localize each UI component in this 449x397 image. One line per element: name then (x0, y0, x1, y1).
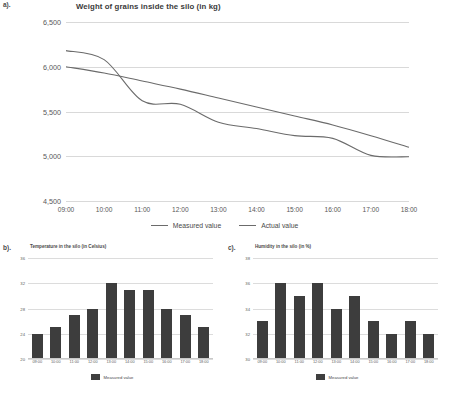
y-tick-label: 32 (245, 331, 250, 336)
pane-label-b: b). (3, 244, 11, 251)
y-tick-label: 5,000 (43, 152, 61, 161)
x-tick-label: 12:00 (84, 359, 103, 364)
bar-column[interactable] (290, 258, 309, 359)
x-tick-label: 09:00 (253, 359, 272, 364)
bar[interactable] (161, 309, 172, 360)
x-tick-label: 14:00 (346, 359, 365, 364)
x-tick-label: 12:00 (309, 359, 328, 364)
x-tick-label: 09:00 (28, 359, 47, 364)
bar-column[interactable] (401, 258, 420, 359)
bar[interactable] (198, 327, 209, 359)
y-tick-label: 4,500 (43, 197, 61, 206)
bar[interactable] (386, 334, 397, 359)
gridline (66, 201, 409, 202)
bar[interactable] (294, 296, 305, 359)
bar-column[interactable] (84, 258, 103, 359)
x-tick-label: 13:00 (327, 359, 346, 364)
bar[interactable] (405, 321, 416, 359)
chart-panel-a: a). Weight of grains inside the silo (in… (0, 0, 449, 240)
x-tick-label: 15:00 (364, 359, 383, 364)
x-tick-label: 15:00 (139, 359, 158, 364)
bar-column[interactable] (383, 258, 402, 359)
x-tick-label: 11:00 (290, 359, 309, 364)
bar-column[interactable] (102, 258, 121, 359)
x-tick-label: 18:00 (401, 206, 418, 213)
bar-column[interactable] (121, 258, 140, 359)
bar[interactable] (87, 309, 98, 360)
x-tick-label: 10:00 (47, 359, 66, 364)
bar[interactable] (312, 283, 323, 359)
legend-line-icon (151, 225, 168, 226)
y-tick-label: 36 (20, 256, 25, 261)
y-tick-label: 20 (20, 357, 25, 362)
bar-column[interactable] (158, 258, 177, 359)
bar[interactable] (349, 296, 360, 359)
x-tick-label: 17:00 (363, 206, 380, 213)
bar-column[interactable] (364, 258, 383, 359)
y-tick-label: 24 (20, 331, 25, 336)
bar[interactable] (50, 327, 61, 359)
plot-area-b: 2024283236 (28, 258, 213, 359)
bar[interactable] (32, 334, 43, 359)
bar-column[interactable] (139, 258, 158, 359)
bar[interactable] (423, 334, 434, 359)
chart-title-c: Humidity in the silo (in %) (255, 244, 311, 249)
x-tick-label: 14:00 (121, 359, 140, 364)
x-tick-label: 16:00 (158, 359, 177, 364)
bar-column[interactable] (28, 258, 47, 359)
x-tick-label: 18:00 (195, 359, 214, 364)
bar-column[interactable] (272, 258, 291, 359)
bar-column[interactable] (327, 258, 346, 359)
bar-column[interactable] (195, 258, 214, 359)
x-tick-label: 17:00 (401, 359, 420, 364)
legend-a: Measured valueActual value (0, 222, 449, 229)
x-axis-labels-c: 09:0010:0011:0012:0013:0014:0015:0016:00… (253, 359, 438, 364)
y-tick-label: 36 (245, 281, 250, 286)
bar[interactable] (69, 315, 80, 359)
plot-area-c: 3032343638 (253, 258, 438, 359)
legend-label-c: Measured value (329, 375, 359, 380)
bar[interactable] (180, 315, 191, 359)
x-tick-label: 14:00 (248, 206, 265, 213)
plot-area-a: 4,5005,0005,5006,0006,500 09:0010:0011:0… (66, 22, 409, 201)
legend-swatch-icon (316, 374, 325, 380)
y-tick-label: 6,500 (43, 18, 61, 27)
x-tick-label: 11:00 (134, 206, 150, 213)
bar[interactable] (143, 290, 154, 359)
chart-title-b: Temperature in the silo (in Celsius) (30, 244, 106, 249)
y-tick-label: 28 (20, 306, 25, 311)
bar-column[interactable] (309, 258, 328, 359)
bar[interactable] (124, 290, 135, 359)
bar-column[interactable] (176, 258, 195, 359)
x-tick-label: 16:00 (383, 359, 402, 364)
pane-label-a: a). (3, 1, 11, 8)
chart-panel-c: c). Humidity in the silo (in %) 30323436… (225, 240, 449, 397)
legend-item[interactable]: Actual value (239, 222, 298, 229)
x-tick-label: 17:00 (176, 359, 195, 364)
line-path (66, 51, 409, 157)
legend-item[interactable]: Measured value (151, 222, 221, 229)
y-tick-label: 6,000 (43, 62, 61, 71)
legend-b: Measured value (0, 374, 224, 380)
x-tick-label: 18:00 (420, 359, 439, 364)
bar-column[interactable] (420, 258, 439, 359)
y-tick-label: 30 (245, 357, 250, 362)
bar[interactable] (257, 321, 268, 359)
y-tick-label: 32 (20, 281, 25, 286)
bar-column[interactable] (47, 258, 66, 359)
x-tick-label: 16:00 (325, 206, 342, 213)
bar[interactable] (368, 321, 379, 359)
bar[interactable] (275, 283, 286, 359)
bar-series-b (28, 258, 213, 359)
legend-line-icon (239, 225, 256, 226)
x-tick-label: 11:00 (65, 359, 84, 364)
x-tick-label: 15:00 (286, 206, 303, 213)
x-tick-label: 10:00 (272, 359, 291, 364)
bar[interactable] (106, 283, 117, 359)
legend-c: Measured value (225, 374, 449, 380)
chart-panel-b: b). Temperature in the silo (in Celsius)… (0, 240, 224, 397)
bar-column[interactable] (65, 258, 84, 359)
bar-column[interactable] (253, 258, 272, 359)
bar[interactable] (331, 309, 342, 360)
bar-column[interactable] (346, 258, 365, 359)
